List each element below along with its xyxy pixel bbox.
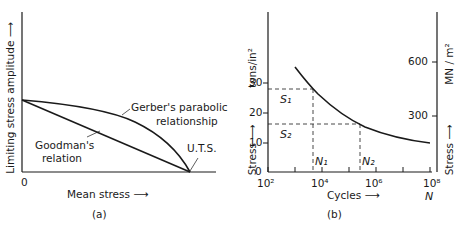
panel-b-left-axis-unit: tons/in² [246, 38, 258, 98]
goodman-label: Goodman's relation [35, 139, 94, 165]
x-tick-1e8: 10⁸ [423, 177, 441, 189]
left-tick-20: 20 [249, 106, 262, 118]
right-tick-600: 600 [408, 55, 428, 67]
goodman-label-line1: Goodman's [35, 139, 94, 152]
s2-label: S₂ [280, 128, 291, 141]
panel-a-caption: (a) [92, 208, 107, 220]
x-tick-1e2: 10² [257, 177, 275, 189]
n1-label: N₁ [315, 155, 328, 168]
panel-a-x-label: Mean stress ⟶ [67, 188, 148, 200]
s1-label: S₁ [280, 93, 291, 106]
panel-b-right-axis-unit: MN / m² [443, 34, 455, 94]
gerber-label: Gerber's parabolic relationship [131, 100, 228, 128]
panel-b-x-label: Cycles ⟶ [327, 189, 380, 201]
gerber-label-line2: relationship [131, 114, 228, 128]
left-tick-30: 30 [249, 76, 262, 88]
right-tick-300: 300 [408, 109, 428, 121]
gerber-label-line1: Gerber's parabolic [131, 100, 228, 114]
x-tick-1e6: 10⁶ [365, 177, 383, 189]
panel-b-x-symbol: N [425, 190, 433, 203]
n2-label: N₂ [362, 155, 375, 168]
left-tick-0: 0 [255, 165, 262, 177]
panel-b-right-axis-label: Stress ⟶ [443, 120, 455, 180]
left-tick-10: 10 [249, 136, 262, 148]
panel-a-origin: 0 [21, 176, 28, 188]
uts-label: U.T.S. [187, 142, 217, 154]
x-tick-1e4: 10⁴ [311, 177, 329, 189]
panel-a-y-label: Limiting stress amplitude ⟶ [4, 18, 16, 178]
goodman-label-line2: relation [35, 152, 94, 165]
panel-b-caption: (b) [327, 208, 342, 220]
